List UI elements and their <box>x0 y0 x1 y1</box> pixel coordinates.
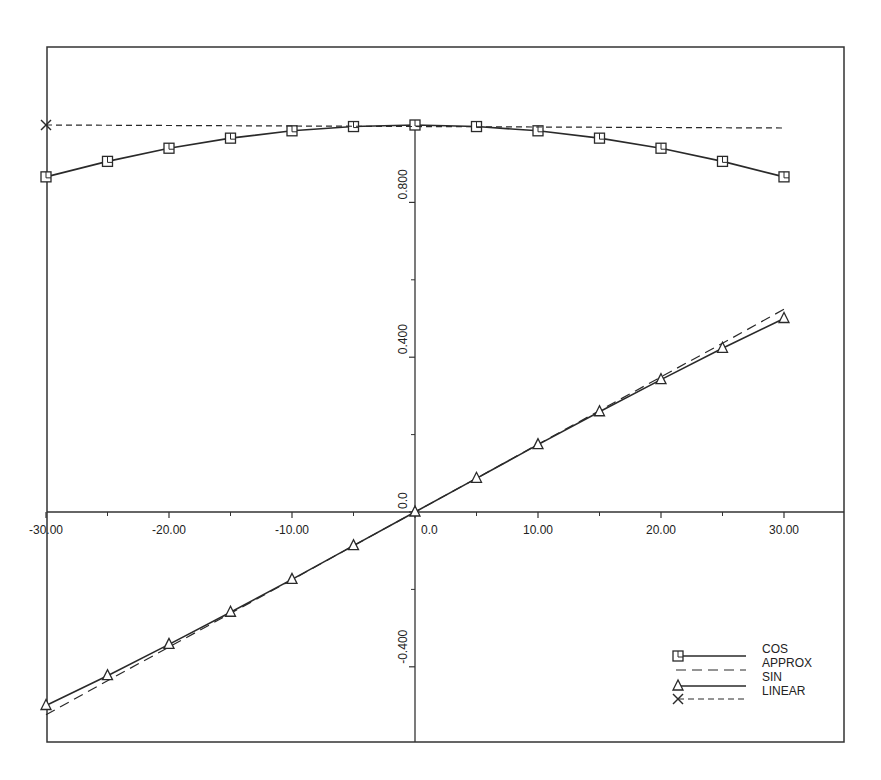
y-tick-label: -0.400 <box>396 629 410 663</box>
sin-triangle-marker <box>410 506 420 516</box>
sin-triangle-marker <box>349 540 359 550</box>
x-tick-label: 20.00 <box>646 523 676 537</box>
legend-label: APPROX <box>762 656 812 670</box>
x-tick-label: -10.00 <box>275 523 309 537</box>
sin-triangle-marker <box>472 472 482 482</box>
sin-triangle-marker <box>287 573 297 583</box>
legend-triangle-marker <box>673 680 683 690</box>
legend-label: SIN <box>762 670 782 684</box>
legend: COSAPPROXSINLINEAR <box>673 642 812 704</box>
x-tick-label: -30.00 <box>29 523 63 537</box>
chart-canvas: -30.00-20.00-10.000.010.0020.0030.00-0.4… <box>0 0 881 780</box>
legend-item-approx: APPROX <box>676 656 812 670</box>
x-tick-label: 30.00 <box>769 523 799 537</box>
x-tick-label: 10.00 <box>523 523 553 537</box>
axes: -30.00-20.00-10.000.010.0020.0030.00-0.4… <box>29 125 844 742</box>
legend-label: COS <box>762 642 788 656</box>
x-tick-label: -20.00 <box>152 523 186 537</box>
legend-label: LINEAR <box>762 684 806 698</box>
y-tick-label: 0.400 <box>396 324 410 354</box>
y-tick-label: 0.0 <box>396 492 410 509</box>
y-tick-label: 0.800 <box>396 169 410 199</box>
x-tick-label: 0.0 <box>421 523 438 537</box>
sin-triangle-marker <box>779 313 789 323</box>
legend-item-linear: LINEAR <box>673 684 806 704</box>
